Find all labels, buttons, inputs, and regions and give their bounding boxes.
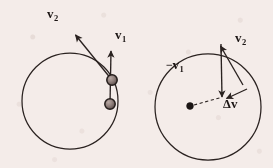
left-velocity-v2-arrow xyxy=(76,35,113,80)
figure-vector-canvas xyxy=(0,0,273,168)
physics-figure: v2 v1 −v1 v2 Δv xyxy=(0,0,273,168)
particle-position-2 xyxy=(105,99,115,109)
particle-position-1 xyxy=(107,75,117,85)
label-right-delta-v: Δv xyxy=(223,97,238,111)
right-negative-v1-arrow xyxy=(221,44,222,97)
left-panel-group xyxy=(22,35,118,149)
label-left-v2: v2 xyxy=(47,7,58,20)
label-left-v1: v1 xyxy=(115,28,126,41)
right-velocity-v2-arrow xyxy=(221,46,244,85)
label-right-negative-v1: −v1 xyxy=(166,58,184,71)
label-right-v2: v2 xyxy=(235,31,246,44)
circle-center-dot xyxy=(187,103,194,110)
radius-dashed-line xyxy=(194,98,221,106)
left-circular-path xyxy=(22,53,118,149)
